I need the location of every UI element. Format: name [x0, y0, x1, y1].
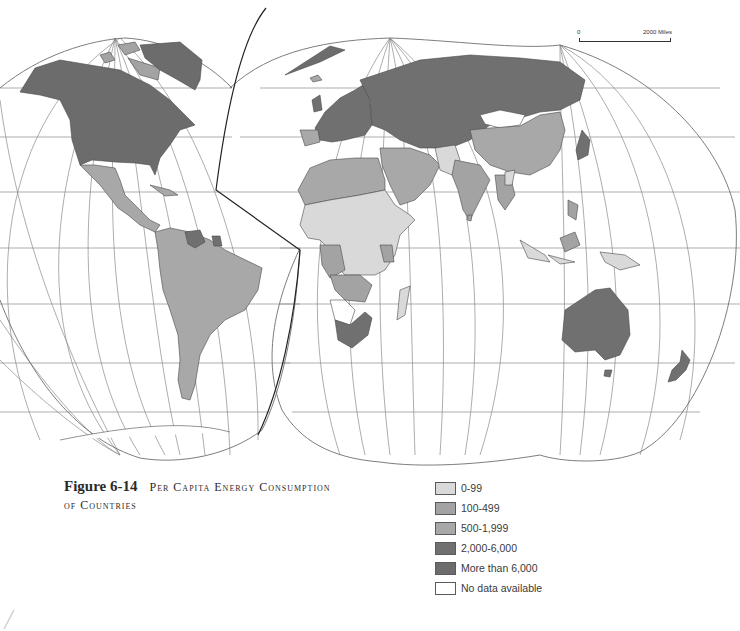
legend-label: More than 6,000	[461, 562, 537, 574]
figure-caption: Figure 6-14 Per Capita Energy Consumptio…	[64, 477, 364, 513]
legend-item-0-99: 0-99	[435, 478, 542, 498]
scale-end-label: 2000 Miles	[643, 29, 672, 35]
legend-item-500-1999: 500-1,999	[435, 518, 542, 538]
legend-label: No data available	[461, 582, 542, 594]
figure-title-line2: of Countries	[64, 498, 364, 513]
region-south-america	[155, 228, 262, 400]
legend-swatch	[435, 542, 456, 555]
legend-item-more-than-6000: More than 6,000	[435, 558, 542, 578]
region-papua	[600, 252, 640, 270]
map-legend: 0-99 100-499 500-1,999 2,000-6,000 More …	[435, 478, 542, 598]
scale-bar-line	[579, 38, 671, 42]
legend-item-no-data: No data available	[435, 578, 542, 598]
scale-bar: 0 2000 Miles	[575, 29, 715, 49]
legend-swatch	[435, 582, 456, 595]
legend-label: 100-499	[461, 502, 500, 514]
legend-swatch	[435, 502, 456, 515]
region-australia	[562, 288, 630, 360]
legend-item-2000-6000: 2,000-6,000	[435, 538, 542, 558]
legend-label: 0-99	[461, 482, 482, 494]
landmasses	[20, 42, 690, 440]
world-map	[0, 0, 740, 470]
region-new-zealand	[668, 350, 690, 382]
region-europe	[315, 82, 372, 142]
legend-label: 500-1,999	[461, 522, 508, 534]
scale-start-label: 0	[577, 29, 580, 35]
legend-label: 2,000-6,000	[461, 542, 517, 554]
page-mark	[2, 600, 16, 630]
region-japan	[576, 130, 590, 160]
legend-swatch	[435, 482, 456, 495]
legend-item-100-499: 100-499	[435, 498, 542, 518]
region-madagascar	[397, 286, 410, 320]
legend-swatch	[435, 522, 456, 535]
region-sub-saharan-africa	[300, 190, 415, 275]
figure-title-line1: Per Capita Energy Consumption	[149, 480, 330, 494]
region-india	[452, 160, 490, 220]
legend-swatch	[435, 562, 456, 575]
region-mexico	[80, 165, 160, 232]
figure-number: Figure 6-14	[64, 478, 137, 494]
region-north-america	[20, 60, 195, 175]
